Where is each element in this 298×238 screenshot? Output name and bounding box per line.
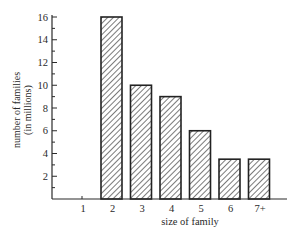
bar-7+ — [249, 159, 270, 199]
bar-3 — [131, 85, 152, 199]
x-tick-label: 5 — [198, 203, 203, 214]
x-tick-label: 7+ — [254, 203, 265, 214]
y-tick-label: 2 — [43, 171, 48, 182]
y-tick-label: 6 — [43, 125, 48, 136]
y-tick-label: 4 — [43, 148, 49, 159]
y-tick-label: 16 — [38, 12, 49, 23]
bar-2 — [101, 17, 122, 199]
x-tick-label: 3 — [139, 203, 144, 214]
y-axis-label-line-2: (in millions) — [22, 72, 33, 148]
x-tick-label: 1 — [80, 203, 85, 214]
x-axis-label: size of family — [140, 216, 240, 227]
x-tick-label: 2 — [110, 203, 115, 214]
family-size-bar-chart: 2468101214161234567+ number of families … — [0, 0, 298, 238]
x-tick-label: 4 — [169, 203, 175, 214]
bars-group — [101, 17, 270, 199]
bar-5 — [190, 131, 211, 199]
y-tick-label: 14 — [38, 34, 49, 45]
y-axis-label: number of families (in millions) — [2, 60, 42, 160]
y-tick-label: 8 — [43, 103, 48, 114]
x-tick-label: 6 — [228, 203, 233, 214]
bar-6 — [219, 159, 240, 199]
bar-4 — [160, 97, 181, 199]
plot-area: 2468101214161234567+ — [0, 0, 298, 238]
y-axis-label-line-1: number of families — [11, 72, 22, 148]
